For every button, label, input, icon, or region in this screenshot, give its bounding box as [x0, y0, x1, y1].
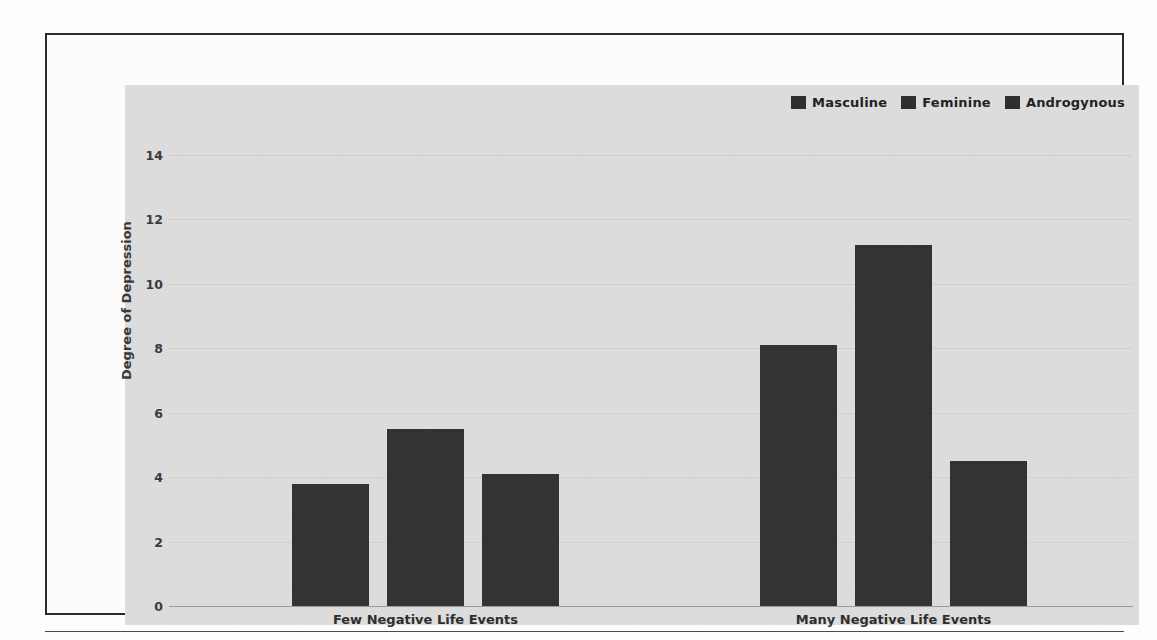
gridline [169, 155, 1133, 156]
bar-masculine-group-2 [760, 345, 837, 606]
y-tick-label: 12 [125, 212, 163, 227]
y-tick-label: 0 [125, 599, 163, 614]
chart-plot-area: Masculine Feminine Androgynous Degree of… [125, 85, 1139, 625]
legend-item-masculine[interactable]: Masculine [791, 95, 887, 110]
y-tick-label: 10 [125, 276, 163, 291]
legend-item-feminine[interactable]: Feminine [901, 95, 991, 110]
figure-frame: Masculine Feminine Androgynous Degree of… [45, 33, 1124, 615]
legend-label: Masculine [812, 95, 887, 110]
legend-swatch-icon [1005, 96, 1020, 109]
legend-swatch-icon [901, 96, 916, 109]
x-category-label: Few Negative Life Events [333, 612, 518, 627]
gridline [169, 348, 1133, 349]
legend-label: Androgynous [1026, 95, 1125, 110]
gridline [169, 413, 1133, 414]
y-tick-label: 6 [125, 405, 163, 420]
legend-label: Feminine [922, 95, 991, 110]
figure-bottom-rule [45, 631, 1124, 632]
x-category-label: Many Negative Life Events [796, 612, 991, 627]
bar-androgynous-group-2 [950, 461, 1027, 606]
gridline [169, 284, 1133, 285]
bar-feminine-group-2 [855, 245, 932, 606]
y-tick-label: 4 [125, 470, 163, 485]
legend-item-androgynous[interactable]: Androgynous [1005, 95, 1125, 110]
legend-swatch-icon [791, 96, 806, 109]
chart-legend: Masculine Feminine Androgynous [791, 95, 1125, 110]
y-tick-label: 8 [125, 341, 163, 356]
y-tick-label: 14 [125, 148, 163, 163]
bar-masculine-group-1 [292, 484, 369, 606]
gridline [169, 606, 1133, 607]
bar-androgynous-group-1 [482, 474, 559, 606]
bar-feminine-group-1 [387, 429, 464, 606]
gridline [169, 219, 1133, 220]
y-tick-label: 2 [125, 534, 163, 549]
